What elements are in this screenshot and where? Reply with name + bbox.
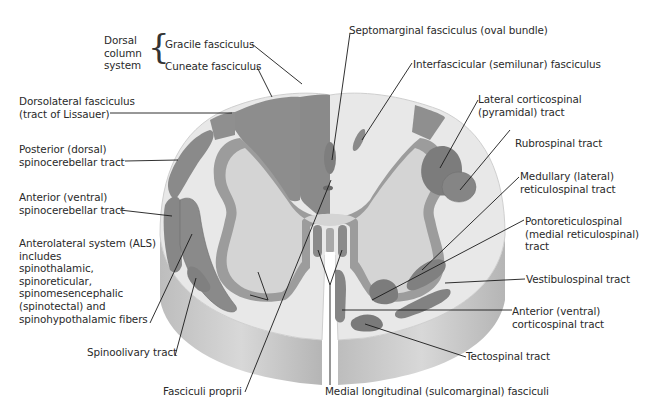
label-dorsal-column-system: Dorsal column system: [104, 34, 142, 72]
label-cuneate-fasciculus: Cuneate fasciculus: [165, 60, 261, 73]
label-medial-longitudinal-fasciculi: Medial longitudinal (sulcomarginal) fasc…: [325, 385, 549, 398]
label-medullary-reticulospinal-tract: Medullary (lateral) reticulospinal tract: [520, 170, 615, 195]
anterior-corticospinal-tract: [335, 270, 346, 323]
label-septomarginal-fasciculus: Septomarginal fasciculus (oval bundle): [349, 24, 548, 37]
label-anterior-corticospinal-tract: Anterior (ventral) corticospinal tract: [512, 305, 604, 330]
anterior-median-fissure-top: [326, 228, 334, 253]
label-rubrospinal-tract: Rubrospinal tract: [515, 137, 602, 150]
label-spinoolivary-tract: Spinoolivary tract: [87, 346, 177, 359]
label-tectospinal-tract: Tectospinal tract: [466, 350, 550, 363]
label-anterolateral-system: Anterolateral system (ALS) includes spin…: [19, 237, 156, 325]
label-pontoreticulospinal-tract: Pontoreticulospinal (medial reticulospin…: [525, 215, 639, 253]
spinal-cord-diagram: Dorsal column system { Gracile fasciculu…: [0, 0, 655, 410]
label-posterior-spinocerebellar-tract: Posterior (dorsal) spinocerebellar tract: [19, 143, 125, 168]
label-interfascicular-fasciculus: Interfascicular (semilunar) fasciculus: [413, 58, 601, 71]
label-dorsolateral-fasciculus: Dorsolateral fasciculus (tract of Lissau…: [19, 95, 135, 120]
medial-longitudinal-fasciculus-right: [338, 225, 347, 257]
label-gracile-fasciculus: Gracile fasciculus: [165, 38, 254, 51]
label-lateral-corticospinal-tract: Lateral corticospinal (pyramidal) tract: [478, 93, 581, 118]
label-vestibulospinal-tract: Vestibulospinal tract: [526, 273, 630, 286]
label-anterior-spinocerebellar-tract: Anterior (ventral) spinocerebellar tract: [19, 191, 125, 216]
label-fasciculi-proprii: Fasciculi proprii: [163, 385, 242, 398]
medial-longitudinal-fasciculus-left: [313, 225, 322, 257]
